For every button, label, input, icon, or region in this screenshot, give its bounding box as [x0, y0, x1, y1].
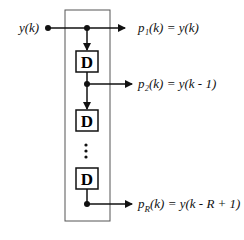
output-label-pr-rest: (k) = y(k - R + 1) [150, 196, 240, 211]
delay-block-r-label: D [81, 170, 93, 189]
ellipsis-dot [84, 155, 87, 158]
ellipsis-dot [84, 149, 87, 152]
delay-block-1-label: D [81, 53, 93, 72]
input-label: y(k) [19, 21, 39, 34]
output-label-p2: p₂(k) = y(k - 1) [138, 77, 216, 90]
delay-block-2-label: D [81, 112, 93, 131]
output-label-p1: p₁(k) = y(k) [138, 21, 199, 34]
output-label-pr: pR(k) = y(k - R + 1) [138, 197, 240, 214]
ellipsis-dot [84, 143, 87, 146]
